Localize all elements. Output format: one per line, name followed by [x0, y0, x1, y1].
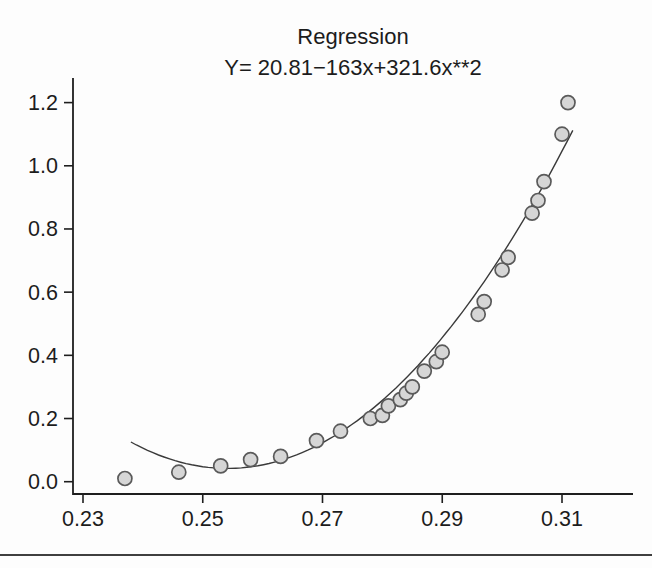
data-point: [561, 96, 575, 110]
data-point: [477, 295, 491, 309]
y-axis-tick-label: 0.2: [28, 407, 58, 431]
data-point: [501, 250, 515, 264]
x-axis-tick-label: 0.29: [421, 507, 463, 531]
regression-figure: Regression Y= 20.81−163x+321.6x**2 0.230…: [0, 0, 652, 568]
data-point: [435, 345, 449, 359]
data-point: [310, 434, 324, 448]
x-axis-tick-label: 0.27: [302, 507, 344, 531]
y-axis-tick-label: 0.8: [28, 217, 58, 241]
data-point: [555, 127, 569, 141]
y-axis-tick-label: 1.0: [28, 154, 58, 178]
y-axis-tick-label: 0.4: [28, 344, 58, 368]
data-point: [525, 206, 539, 220]
y-axis-tick-label: 0.0: [28, 470, 58, 494]
data-point: [471, 307, 485, 321]
page-rule-divider: [0, 554, 652, 556]
data-point: [334, 424, 348, 438]
x-axis-tick-label: 0.31: [541, 507, 583, 531]
axes-lines: [73, 78, 633, 494]
data-point: [244, 453, 258, 467]
data-point: [172, 465, 186, 479]
data-point: [274, 449, 288, 463]
data-point: [214, 459, 228, 473]
data-point: [118, 472, 132, 486]
data-point: [537, 175, 551, 189]
data-point: [531, 194, 545, 208]
data-point: [417, 364, 431, 378]
data-point: [405, 380, 419, 394]
y-axis-tick-label: 0.6: [28, 281, 58, 305]
x-axis-tick-label: 0.23: [62, 507, 104, 531]
regression-curve: [131, 130, 573, 468]
y-axis-tick-label: 1.2: [28, 91, 58, 115]
x-axis-tick-label: 0.25: [182, 507, 224, 531]
chart-canvas: 0.230.250.270.290.310.00.20.40.60.81.01.…: [0, 0, 652, 568]
